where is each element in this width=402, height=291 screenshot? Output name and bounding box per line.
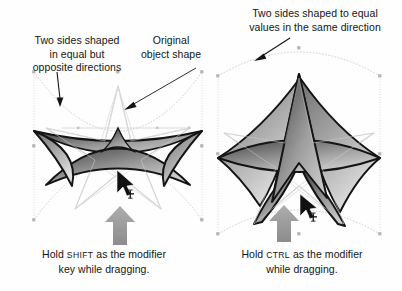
left-shape-annotation: Two sides shaped in equal but opposite d… [6,34,148,75]
left-shape-annotation-line-2: in equal but [6,48,148,62]
left-shape-annotation-line-1: Two sides shaped [6,34,148,48]
left-mouse-pointer-icon [117,170,134,199]
original-shape-annotation-line-1: Original [128,34,214,48]
left-caption: Hold SHIFT as the modifier key while dra… [28,247,180,276]
right-caption-prefix: Hold [241,248,266,260]
left-caption-line-2: key while dragging. [28,262,180,276]
left-leader-arrow-1 [57,72,64,107]
original-shape-annotation-line-2: object shape [128,48,214,62]
right-caption-line-1: Hold CTRL as the modifier [222,247,382,262]
left-caption-prefix: Hold [42,248,67,260]
right-leader-arrow [254,38,290,61]
right-caption-suffix: as the modifier [290,248,363,260]
right-shape-annotation-line-2: values in the same direction [232,21,398,35]
right-mouse-pointer-icon [300,194,317,222]
left-caption-suffix: as the modifier [93,248,166,260]
figure-canvas: Two sides shaped in equal but opposite d… [0,0,402,291]
right-panel-graphics [216,38,381,235]
left-shape-annotation-line-3: opposite directions [6,61,148,75]
right-shape-annotation: Two sides shaped to equal values in the … [232,7,398,34]
original-shape-annotation: Original object shape [128,34,214,61]
left-guide-line [62,127,190,129]
right-shape-annotation-line-1: Two sides shaped to equal [232,7,398,21]
left-panel-graphics [32,68,203,221]
left-drag-arrow[interactable] [105,206,135,245]
right-caption: Hold CTRL as the modifier while dragging… [222,247,382,276]
left-caption-line-1: Hold SHIFT as the modifier [28,247,180,262]
right-distorted-star[interactable] [218,74,380,226]
right-caption-line-2: while dragging. [222,262,382,276]
left-caption-modifier-key: SHIFT [67,250,94,260]
right-caption-modifier-key: CTRL [266,250,290,260]
